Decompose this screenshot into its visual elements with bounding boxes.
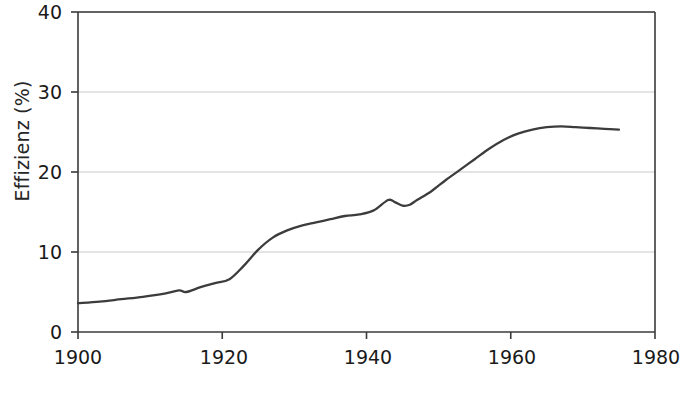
axis-ticks [71, 12, 655, 339]
x-tick-label-1900: 1900 [33, 348, 123, 367]
x-tick-label-1980: 1980 [611, 348, 696, 367]
x-tick-label-1960: 1960 [467, 348, 557, 367]
y-tick-label-10: 10 [18, 243, 62, 262]
gridlines [78, 12, 655, 252]
data-line-effizienz [78, 126, 619, 303]
x-tick-label-1940: 1940 [323, 348, 413, 367]
chart-figure: Effizienz (%) 40 30 20 10 0 1900 1920 19… [0, 0, 696, 408]
y-tick-label-40: 40 [18, 3, 62, 22]
y-tick-label-0: 0 [18, 323, 62, 342]
y-axis-label: Effizienz (%) [11, 51, 33, 231]
y-tick-label-20: 20 [18, 163, 62, 182]
y-tick-label-30: 30 [18, 83, 62, 102]
x-tick-label-1920: 1920 [179, 348, 269, 367]
